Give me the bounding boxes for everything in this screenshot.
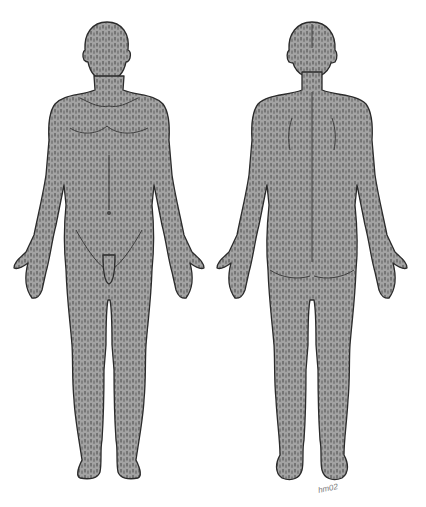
anterior-figure	[14, 22, 204, 479]
body-chart-canvas	[0, 0, 426, 507]
navel	[107, 211, 111, 215]
head-front	[83, 22, 130, 82]
posterior-figure	[217, 22, 407, 480]
